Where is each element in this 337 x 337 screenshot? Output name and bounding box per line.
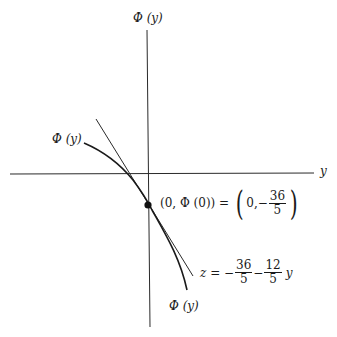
tangent-equation: z = −365−125y <box>200 259 292 286</box>
diagram-graphics <box>0 0 337 337</box>
point-label: (0, Φ (0)) = <box>160 196 229 210</box>
horizontal-axis <box>10 173 314 174</box>
fraction-denominator: 5 <box>269 204 286 217</box>
left-paren: ( <box>236 186 244 220</box>
point-x: 0, <box>246 196 257 210</box>
horizontal-axis-label: y <box>320 164 327 178</box>
fraction-numerator: 12 <box>264 259 281 273</box>
diagram: Φ (y) y Φ (y) Φ (y) (0, Φ (0)) = (0,−365… <box>0 0 337 337</box>
vertical-axis-label: Φ (y) <box>133 11 163 25</box>
tangent-fraction-1: 365 <box>235 259 252 286</box>
point-y-fraction: 365 <box>269 190 286 217</box>
fraction-numerator: 36 <box>269 190 286 204</box>
fraction-numerator: 36 <box>235 259 252 273</box>
tangent-lhs: z = − <box>200 266 234 280</box>
point-sign: − <box>258 196 268 210</box>
tangent-var: y <box>286 266 293 280</box>
fraction-denominator: 5 <box>264 273 281 286</box>
tangent-fraction-2: 125 <box>264 259 281 286</box>
tangent-minus: − <box>253 266 263 280</box>
curve-label-lower: Φ (y) <box>169 299 199 313</box>
curve-label-upper: Φ (y) <box>52 132 82 146</box>
vertical-axis <box>147 30 150 327</box>
fraction-denominator: 5 <box>235 273 252 286</box>
tangent-point <box>144 201 151 208</box>
right-paren: ) <box>290 186 298 220</box>
point-annotation: (0, Φ (0)) = (0,−365) <box>160 186 300 220</box>
